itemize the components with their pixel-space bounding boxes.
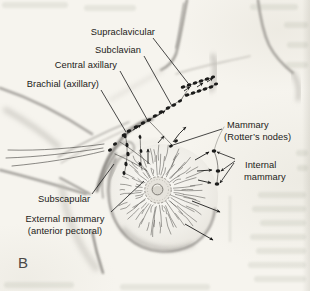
label-subclavian: Subclavian	[95, 44, 141, 56]
label-brachial-axillary: Brachial (axillary)	[27, 78, 99, 90]
label-external-mammary: External mammary (anterior pectoral)	[16, 213, 114, 237]
leader-central-axillary	[120, 71, 148, 121]
areola	[145, 177, 171, 203]
label-internal-mammary-line2: mammary	[244, 171, 286, 183]
label-internal-mammary-line1: Internal	[245, 159, 286, 171]
label-subscapular: Subscapular	[38, 193, 90, 205]
leader-internal-mammary-fan	[217, 152, 235, 183]
panel-letter: B	[18, 254, 28, 271]
label-mammary-rotters-line2: (Rotter’s nodes)	[224, 131, 291, 143]
anatomical-figure-panel: Supraclavicular Subclavian Central axill…	[0, 0, 310, 291]
label-internal-mammary: Internal mammary	[245, 159, 286, 183]
label-mammary-rotters-line1: Mammary	[227, 119, 291, 131]
label-supraclavicular: Supraclavicular	[91, 26, 155, 38]
label-external-mammary-line1: External mammary	[16, 213, 114, 225]
leader-supraclavicular	[153, 38, 191, 87]
leader-subclavian	[144, 56, 172, 106]
lymphatic-drainage-illustration	[0, 0, 310, 291]
leader-brachial	[101, 90, 126, 132]
label-mammary-rotters: Mammary (Rotter’s nodes)	[224, 119, 291, 143]
label-external-mammary-line2: (anterior pectoral)	[16, 225, 114, 237]
leader-mammary-rotters	[173, 129, 222, 145]
label-central-axillary: Central axillary	[55, 59, 117, 71]
